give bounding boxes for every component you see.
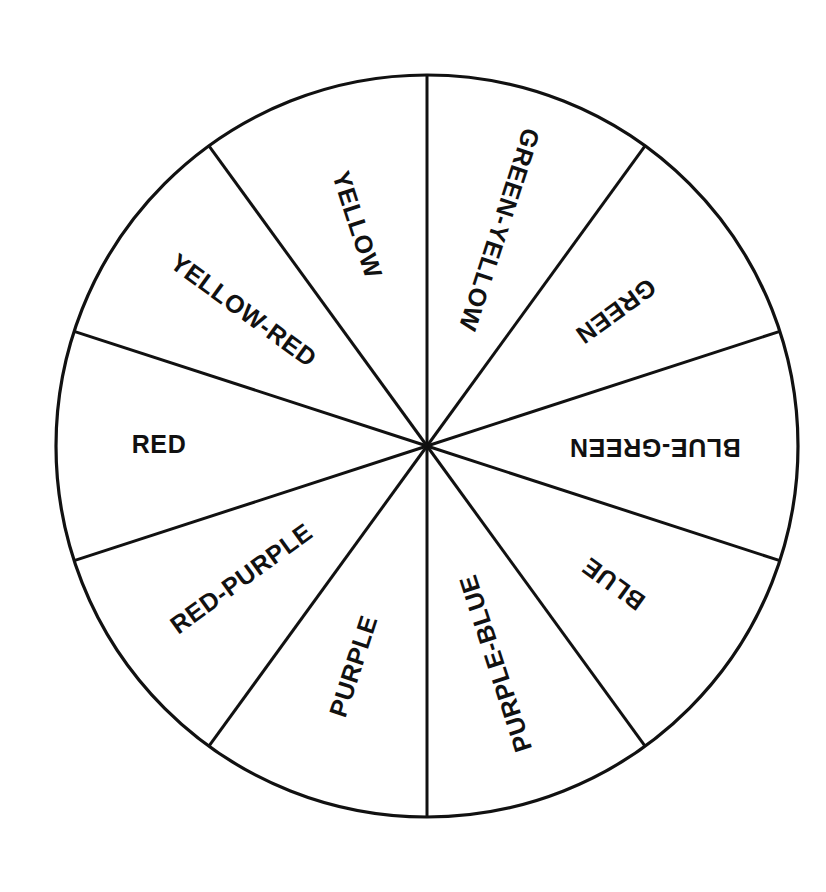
- sector-blue-green-label: BLUE-GREEN: [569, 434, 740, 462]
- sector-red-label: RED: [132, 430, 187, 458]
- color-wheel-figure: GREEN-YELLOWGREENBLUE-GREENBLUEPURPLE-BL…: [0, 0, 826, 892]
- color-wheel-svg: GREEN-YELLOWGREENBLUE-GREENBLUEPURPLE-BL…: [0, 0, 826, 892]
